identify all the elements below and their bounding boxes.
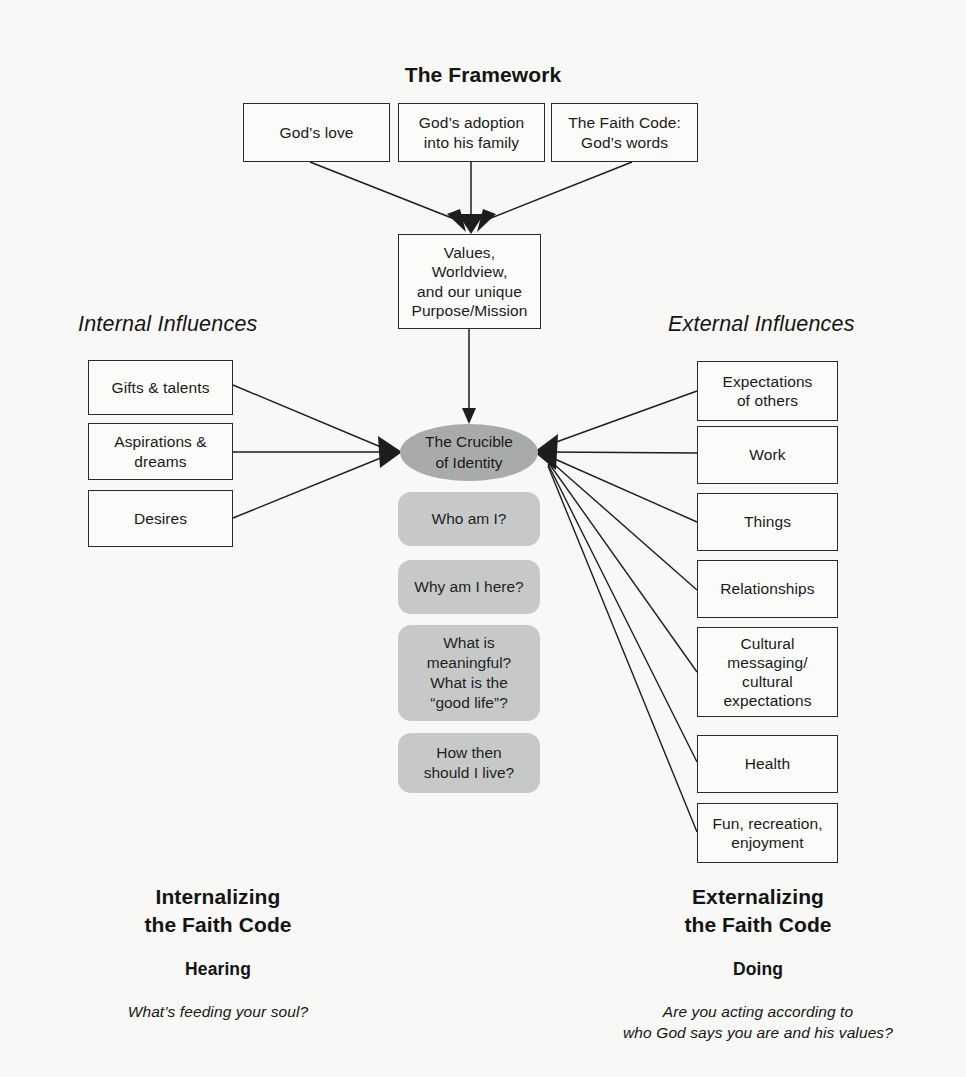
identity-question-why-am-i-here: Why am I here?	[398, 560, 540, 614]
framework-input-gods-adoption: God’s adoption into his family	[398, 103, 545, 162]
external-influence-expectations-of-others: Expectations of others	[697, 361, 838, 421]
edges-internal-to-crucible	[233, 385, 388, 518]
section-heading-external-influences: External Influences	[668, 312, 855, 337]
identity-question-who-am-i: Who am I?	[398, 492, 540, 546]
identity-question-what-is-meaningful: What is meaningful? What is the “good li…	[398, 625, 540, 721]
internal-influence-desires: Desires	[88, 490, 233, 547]
footer-internalizing-question: What’s feeding your soul?	[38, 1002, 398, 1023]
identity-question-label: What is meaningful? What is the “good li…	[427, 633, 511, 714]
framework-input-label: God’s adoption into his family	[419, 113, 524, 151]
identity-question-label: Why am I here?	[414, 577, 523, 597]
values-box-label: Values, Worldview, and our unique Purpos…	[411, 243, 527, 320]
footer-externalizing-question: Are you acting according to who God says…	[578, 1002, 938, 1044]
footer-internalizing-subtitle: Hearing	[38, 959, 398, 980]
external-influence-label: Fun, recreation, enjoyment	[712, 814, 822, 852]
internal-influence-label: Aspirations & dreams	[114, 432, 207, 470]
framework-input-label: The Faith Code: God’s words	[568, 113, 681, 151]
framework-input-faith-code: The Faith Code: God’s words	[551, 103, 698, 162]
values-worldview-purpose-box: Values, Worldview, and our unique Purpos…	[398, 234, 541, 329]
footer-externalizing-title: Externalizing the Faith Code	[578, 883, 938, 939]
identity-question-how-should-i-live: How then should I live?	[398, 733, 540, 793]
external-influence-things: Things	[697, 493, 838, 551]
footer-internalizing: Internalizing the Faith Code Hearing Wha…	[38, 883, 398, 1023]
page-title: The Framework	[283, 63, 683, 87]
external-influence-health: Health	[697, 735, 838, 793]
footer-externalizing-subtitle: Doing	[578, 959, 938, 980]
identity-question-label: How then should I live?	[424, 743, 514, 783]
internal-influence-label: Desires	[134, 509, 187, 528]
crucible-of-identity: The Crucible of Identity	[400, 424, 538, 481]
crucible-label: The Crucible of Identity	[425, 432, 513, 472]
external-influence-label: Things	[744, 512, 791, 531]
external-influence-relationships: Relationships	[697, 560, 838, 618]
external-influence-label: Work	[749, 445, 785, 464]
framework-input-label: God’s love	[280, 123, 354, 142]
edges-framework-to-values	[310, 162, 632, 222]
external-influence-label: Expectations of others	[723, 372, 813, 410]
external-influence-label: Relationships	[720, 579, 814, 598]
internal-influence-aspirations-dreams: Aspirations & dreams	[88, 423, 233, 480]
identity-question-label: Who am I?	[432, 509, 507, 529]
arrowhead-values-to-crucible	[462, 408, 476, 424]
edges-external-to-crucible	[548, 391, 697, 832]
section-heading-internal-influences: Internal Influences	[78, 312, 258, 337]
framework-input-gods-love: God’s love	[243, 103, 390, 162]
framework-diagram: The Framework God’s love God’s adoption …	[0, 0, 966, 1077]
internal-influence-label: Gifts & talents	[112, 378, 210, 397]
footer-externalizing: Externalizing the Faith Code Doing Are y…	[578, 883, 938, 1044]
external-influence-cultural-messaging: Cultural messaging/ cultural expectation…	[697, 627, 838, 717]
external-influence-fun-recreation: Fun, recreation, enjoyment	[697, 803, 838, 863]
internal-influence-gifts-talents: Gifts & talents	[88, 360, 233, 415]
arrowheads-into-values	[447, 209, 496, 234]
external-influence-label: Cultural messaging/ cultural expectation…	[723, 634, 811, 711]
footer-internalizing-title: Internalizing the Faith Code	[38, 883, 398, 939]
external-influence-work: Work	[697, 426, 838, 484]
external-influence-label: Health	[745, 754, 790, 773]
arrowhead-internal-to-crucible	[378, 436, 402, 468]
